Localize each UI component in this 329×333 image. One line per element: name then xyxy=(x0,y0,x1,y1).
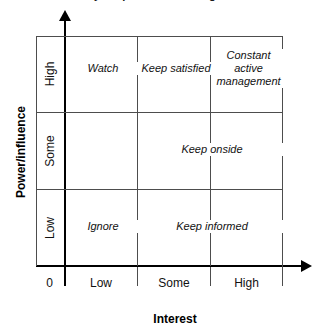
cell-constant-active-management: Constant active management xyxy=(212,49,285,88)
cell-keep-onside: Keep onside xyxy=(139,143,285,156)
x-tick-label-high: High xyxy=(211,276,282,290)
y-tick-label-high: High xyxy=(36,36,64,112)
cell-keep-informed: Keep informed xyxy=(139,220,285,233)
cell-watch: Watch xyxy=(67,62,139,75)
y-tick-label-some: Some xyxy=(36,112,64,189)
cell-keep-satisfied: Keep satisfied xyxy=(139,62,213,75)
stakeholder-power-interest-grid: Stakeholder analysis: power/influence gr… xyxy=(0,0,329,333)
grid-line-top xyxy=(36,36,282,37)
origin-label: 0 xyxy=(36,276,63,290)
y-tick-label-low: Low xyxy=(36,189,64,266)
y-axis-arrowhead-icon xyxy=(59,10,71,21)
x-axis-title: Interest xyxy=(100,312,250,326)
grid-line-high-some xyxy=(36,112,282,113)
x-tick-label-low: Low xyxy=(65,276,137,290)
y-axis-title: Power/influence xyxy=(14,92,28,212)
y-axis-line xyxy=(64,18,66,268)
x-tick-high-end xyxy=(282,267,283,286)
x-axis-arrowhead-icon xyxy=(301,260,312,272)
grid-line-some-low xyxy=(36,189,282,190)
clipped-title-text: Stakeholder analysis: power/influence gr… xyxy=(6,0,306,3)
x-axis-line xyxy=(36,265,304,267)
cell-ignore: Ignore xyxy=(67,220,139,233)
x-tick-label-some: Some xyxy=(138,276,210,290)
